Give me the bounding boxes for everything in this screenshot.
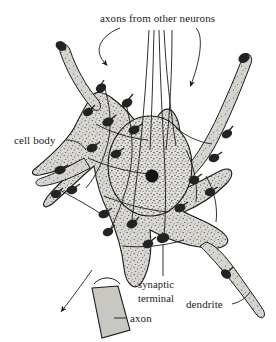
leader-axons-right [192,28,200,82]
label-dendrite: dendrite [186,298,223,310]
neuron-illustration: axons from other neurons cell body synap… [0,0,276,342]
nucleolus [146,170,158,182]
axon-hillock [94,278,120,284]
leader-axons-left [99,28,120,62]
label-synaptic-terminal-line2: terminal [138,293,174,304]
label-axon: axon [130,312,152,324]
label-axons-from-other-neurons: axons from other neurons [100,12,215,24]
neuron-diagram: axons from other neurons cell body synap… [0,0,276,342]
label-cell-body: cell body [14,134,56,146]
impulse-direction-arrow [64,270,92,308]
axon-trunk [92,286,130,338]
dendrite-upper-left [60,44,100,111]
label-synaptic-terminal-line1: synaptic [138,279,174,290]
